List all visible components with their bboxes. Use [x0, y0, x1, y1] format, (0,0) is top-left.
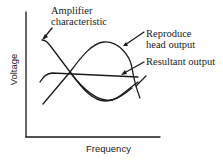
resultant-label-line1: Resultant output [146, 56, 215, 67]
x-axis-label: Frequency [86, 143, 131, 154]
reproduce-label: Reproduce head output [146, 28, 195, 50]
amplifier-label: Amplifier characteristic [51, 5, 107, 27]
resultant-label: Resultant output [146, 56, 215, 67]
amplifier-curve [42, 40, 112, 100]
amplifier-label-line1: Amplifier [51, 5, 107, 16]
reproduce-label-line2: head output [146, 39, 195, 50]
amplifier-label-line2: characteristic [51, 16, 107, 27]
reproduce-label-line1: Reproduce [146, 28, 195, 39]
leader-reproduce [125, 32, 144, 45]
arrowhead-resultant [121, 70, 127, 75]
leader-resultant [126, 62, 144, 72]
y-axis-label: Voltage [8, 54, 19, 86]
diagram-canvas [0, 0, 223, 161]
